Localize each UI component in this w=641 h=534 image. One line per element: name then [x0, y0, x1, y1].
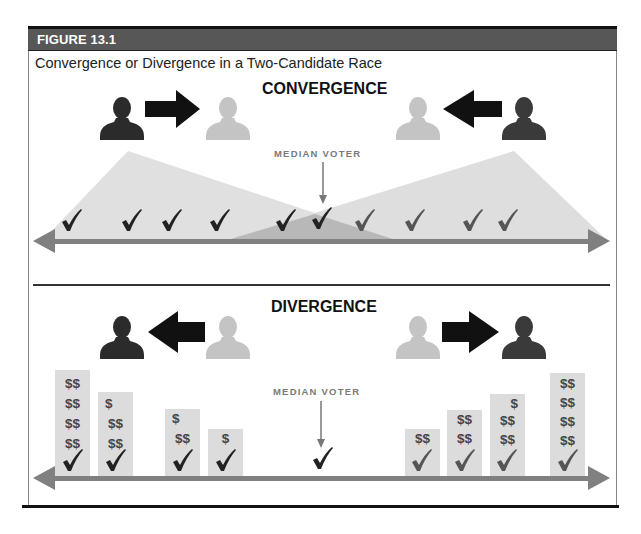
- divergence-axis-left-arrowhead: [33, 466, 55, 490]
- divergence-policy-axis: [52, 476, 598, 481]
- figure-bottom-rule: [22, 505, 619, 508]
- divergence-axis-layer: [0, 0, 641, 534]
- divergence-axis-right-arrowhead: [588, 466, 610, 490]
- divergence-voter-checks: [63, 447, 333, 471]
